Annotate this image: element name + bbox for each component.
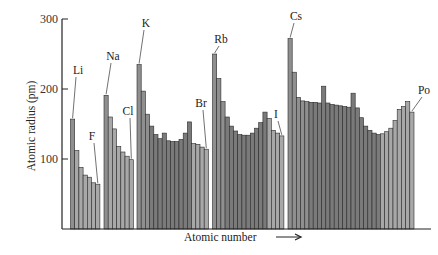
leader-line	[412, 97, 422, 111]
bar-Lu	[355, 108, 359, 229]
bar-Cd	[259, 123, 263, 229]
y-tick-label-100: 100	[40, 152, 58, 166]
bar-Tc	[238, 135, 242, 230]
bar-Pm	[313, 102, 317, 229]
bar-Ag	[255, 128, 259, 229]
bar-Cl	[129, 160, 133, 229]
bar-Fe	[166, 141, 170, 229]
bar-In	[263, 112, 267, 229]
bar-Sb	[271, 130, 275, 229]
leader-line	[94, 143, 98, 183]
bar-V	[154, 135, 158, 230]
bar-Ni	[175, 142, 179, 230]
bar-Hf	[359, 118, 363, 229]
bar-Nb	[229, 126, 233, 229]
bar-Be	[75, 151, 79, 229]
bar-Tb	[330, 104, 334, 229]
bar-Pb	[401, 107, 405, 230]
bar-Zr	[225, 117, 229, 229]
bar-series	[71, 39, 415, 229]
bar-K	[137, 65, 141, 230]
bar-S	[125, 156, 129, 229]
element-label-f: F	[89, 130, 95, 142]
bar-Ta	[364, 126, 368, 229]
leader-line	[130, 118, 131, 159]
bar-Sr	[217, 79, 221, 230]
bar-Na	[104, 95, 108, 229]
bar-Rb	[213, 54, 217, 229]
atomic-radius-chart: LiFNaClKBrRbICsPo 100 200 300 Atomic rad…	[0, 0, 438, 255]
leader-line	[203, 110, 206, 148]
bar-Pt	[385, 132, 389, 229]
bar-Ti	[150, 126, 154, 229]
bar-Co	[171, 142, 175, 230]
bar-Yb	[351, 93, 355, 229]
bar-Ru	[242, 135, 246, 229]
bar-Er	[343, 107, 347, 230]
bar-B	[79, 167, 83, 229]
y-tick-label-300: 300	[40, 12, 58, 26]
bar-Ge	[192, 144, 196, 229]
bar-Dy	[334, 105, 338, 229]
bar-Ca	[141, 91, 145, 229]
bar-F	[96, 184, 100, 229]
bar-Cu	[179, 139, 183, 229]
bar-Sn	[267, 118, 271, 229]
bar-Eu	[322, 86, 326, 229]
bar-Zn	[183, 133, 187, 229]
bar-W	[368, 130, 372, 229]
x-axis-title: Atomic number	[184, 231, 257, 243]
bar-Bi	[406, 102, 410, 229]
bar-Se	[200, 147, 204, 229]
bar-Mg	[108, 117, 112, 229]
bar-Cs	[288, 39, 292, 229]
bar-N	[87, 177, 91, 229]
arrow-right-icon	[276, 234, 301, 240]
bar-Rh	[246, 135, 250, 229]
bar-Pd	[250, 133, 254, 229]
bar-Cr	[158, 139, 162, 229]
bar-As	[196, 144, 200, 229]
bar-Si	[117, 146, 121, 229]
bar-Y	[221, 102, 225, 229]
bar-Ce	[301, 101, 305, 229]
bar-Sm	[317, 103, 321, 229]
bar-Po	[410, 112, 414, 229]
element-label-na: Na	[106, 50, 119, 62]
bar-Te	[276, 133, 280, 229]
leader-line	[106, 63, 111, 94]
bar-Pr	[305, 102, 309, 229]
bar-Au	[389, 128, 393, 229]
bar-Ba	[292, 72, 296, 229]
leader-line	[215, 46, 219, 53]
bar-Ir	[380, 134, 384, 229]
y-tick-label-200: 200	[40, 82, 58, 96]
element-label-cl: Cl	[123, 105, 134, 117]
bar-Sc	[145, 114, 149, 229]
bar-O	[92, 183, 96, 229]
element-label-i: I	[274, 108, 278, 120]
bar-Tl	[397, 109, 401, 229]
bar-Re	[372, 133, 376, 229]
element-label-br: Br	[195, 97, 207, 109]
leader-line	[290, 23, 294, 38]
bar-Mn	[162, 133, 166, 229]
leader-line	[139, 30, 144, 64]
bar-Ga	[187, 122, 191, 229]
bar-La	[296, 97, 300, 229]
element-label-po: Po	[418, 84, 430, 96]
bar-Tm	[347, 107, 351, 229]
bar-Ho	[338, 106, 342, 229]
element-label-k: K	[142, 17, 151, 29]
bar-C	[83, 175, 87, 229]
bar-Nd	[309, 102, 313, 229]
bar-Li	[71, 119, 75, 229]
bar-P	[121, 152, 125, 229]
bar-Al	[112, 129, 116, 229]
bar-Hg	[393, 121, 397, 230]
y-axis-title: Atomic radius (pm)	[25, 80, 38, 171]
element-label-rb: Rb	[214, 33, 228, 45]
element-label-cs: Cs	[290, 10, 303, 22]
bar-Br	[204, 149, 208, 229]
leader-line	[73, 77, 76, 118]
